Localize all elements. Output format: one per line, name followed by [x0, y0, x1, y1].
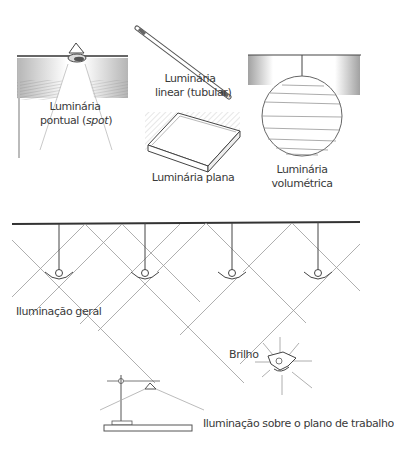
spot-label-line1: Luminária	[40, 100, 110, 114]
linear-label-line2: linear (tubular)	[155, 86, 225, 100]
volumetric-luminaire-label: Luminária volumétrica	[264, 163, 340, 191]
task-lighting-label: Iluminação sobre o plano de trabalho	[203, 417, 394, 431]
spot-label-line2: pontual (spot)	[40, 114, 110, 128]
task-lighting-drawing	[100, 375, 204, 431]
linear-label-line1: Luminária	[155, 72, 225, 86]
flat-label-line1: Luminária plana	[143, 171, 243, 185]
general-lighting-label: Iluminação geral	[16, 305, 101, 319]
volumetric-luminaire-drawing	[248, 55, 361, 156]
flat-luminaire-drawing	[145, 112, 240, 172]
volumetric-label-line1: Luminária	[264, 163, 340, 177]
general-lighting-drawing	[12, 222, 360, 383]
linear-luminaire-label: Luminária linear (tubular)	[155, 72, 225, 100]
glare-label: Brilho	[229, 348, 258, 362]
flat-luminaire-label: Luminária plana	[143, 171, 243, 185]
glare-drawing	[255, 337, 312, 395]
volumetric-label-line2: volumétrica	[264, 177, 340, 191]
spot-luminaire-label: Luminária pontual (spot)	[40, 100, 110, 128]
